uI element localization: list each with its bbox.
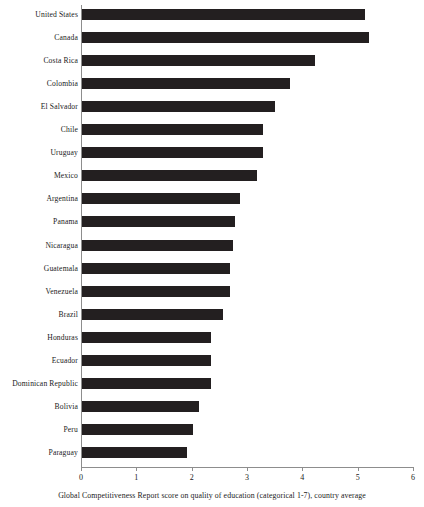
bar xyxy=(82,309,223,320)
x-tick-label: 0 xyxy=(71,472,91,483)
bar-row xyxy=(82,124,414,135)
x-tick-label: 2 xyxy=(182,472,202,483)
category-label: Mexico xyxy=(1,170,78,181)
x-tick-mark xyxy=(358,467,359,471)
bar xyxy=(82,147,263,158)
category-label: Panama xyxy=(1,216,78,227)
bar xyxy=(82,170,257,181)
category-label: Costa Rica xyxy=(1,55,78,66)
category-axis-labels: United StatesCanadaCosta RicaColombiaEl … xyxy=(0,5,78,467)
bar-chart: United StatesCanadaCosta RicaColombiaEl … xyxy=(0,0,424,507)
bar xyxy=(82,424,193,435)
bar-row xyxy=(82,447,414,458)
category-label: Guatemala xyxy=(1,263,78,274)
bar-row xyxy=(82,32,414,43)
x-tick-mark xyxy=(81,467,82,471)
bar-row xyxy=(82,193,414,204)
bar-row xyxy=(82,401,414,412)
x-tick-mark xyxy=(136,467,137,471)
category-label: Dominican Republic xyxy=(1,378,78,389)
bar xyxy=(82,401,199,412)
category-label: United States xyxy=(1,9,78,20)
bar xyxy=(82,193,240,204)
bar xyxy=(82,78,290,89)
category-label: Canada xyxy=(1,32,78,43)
bar xyxy=(82,32,369,43)
x-tick-label: 4 xyxy=(292,472,312,483)
category-label: El Salvador xyxy=(1,101,78,112)
category-label: Paraguay xyxy=(1,447,78,458)
category-label: Bolivia xyxy=(1,401,78,412)
bar xyxy=(82,378,211,389)
category-label: Chile xyxy=(1,124,78,135)
bar-row xyxy=(82,378,414,389)
bar-row xyxy=(82,424,414,435)
bar xyxy=(82,240,233,251)
category-label: Argentina xyxy=(1,193,78,204)
x-tick-label: 3 xyxy=(237,472,257,483)
bar-row xyxy=(82,216,414,227)
category-label: Peru xyxy=(1,424,78,435)
x-tick-label: 6 xyxy=(403,472,423,483)
bars-container xyxy=(82,5,414,467)
x-axis-caption: Global Competitiveness Report score on q… xyxy=(0,490,424,501)
category-label: Uruguay xyxy=(1,147,78,158)
category-label: Honduras xyxy=(1,332,78,343)
bar xyxy=(82,124,263,135)
bar-row xyxy=(82,240,414,251)
category-label: Brazil xyxy=(1,309,78,320)
x-tick-label: 1 xyxy=(126,472,146,483)
bar xyxy=(82,216,235,227)
x-tick-mark xyxy=(413,467,414,471)
bar-row xyxy=(82,286,414,297)
bar-row xyxy=(82,101,414,112)
category-label: Nicaragua xyxy=(1,240,78,251)
bar xyxy=(82,355,211,366)
x-tick-mark xyxy=(247,467,248,471)
x-tick-mark xyxy=(192,467,193,471)
bar-row xyxy=(82,355,414,366)
bar xyxy=(82,9,365,20)
bar-row xyxy=(82,263,414,274)
bar-row xyxy=(82,309,414,320)
category-label: Venezuela xyxy=(1,286,78,297)
bar xyxy=(82,332,211,343)
x-tick-label: 5 xyxy=(348,472,368,483)
bar-row xyxy=(82,170,414,181)
bar xyxy=(82,101,275,112)
bar-row xyxy=(82,332,414,343)
bar-row xyxy=(82,9,414,20)
bar-row xyxy=(82,78,414,89)
bar-row xyxy=(82,147,414,158)
bar xyxy=(82,447,187,458)
bar-row xyxy=(82,55,414,66)
x-tick-mark xyxy=(302,467,303,471)
category-label: Ecuador xyxy=(1,355,78,366)
bar xyxy=(82,55,315,66)
bar xyxy=(82,286,230,297)
category-label: Colombia xyxy=(1,78,78,89)
bar xyxy=(82,263,230,274)
